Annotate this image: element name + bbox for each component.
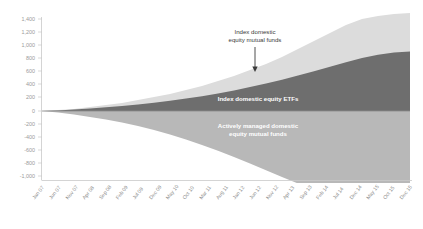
y-tick-label: 1,200 <box>22 29 36 35</box>
y-axis-tick-group: 1,400 1,200 1,000 800 600 400 200 0 -200… <box>20 16 35 179</box>
active-band-label-line-2: equity mutual funds <box>229 130 288 137</box>
y-tick-label: -1,000 <box>20 173 35 179</box>
active-band-label-line-1: Actively managed domestic <box>218 122 299 129</box>
y-tick-label: 600 <box>26 68 35 74</box>
callout-line-2: equity mutual funds <box>229 36 282 43</box>
y-tick-label: -800 <box>24 160 35 166</box>
y-tick-label: 200 <box>26 94 35 100</box>
y-tick-label: -200 <box>24 121 35 127</box>
chart-canvas: 1,400 1,200 1,000 800 600 400 200 0 -200… <box>0 0 423 229</box>
y-tick-label: -600 <box>24 147 35 153</box>
y-tick-label: 1,000 <box>22 42 36 48</box>
y-tick-label: 400 <box>26 81 35 87</box>
y-tick-label: 0 <box>32 108 35 114</box>
y-tick-label: 1,400 <box>22 16 36 22</box>
flow-area-chart: 1,400 1,200 1,000 800 600 400 200 0 -200… <box>0 0 423 229</box>
y-tick-label: 800 <box>26 55 35 61</box>
y-tick-label: -400 <box>24 134 35 140</box>
callout-line-1: Index domestic <box>235 28 276 35</box>
etf-band-label: Index domestic equity ETFs <box>218 95 299 102</box>
